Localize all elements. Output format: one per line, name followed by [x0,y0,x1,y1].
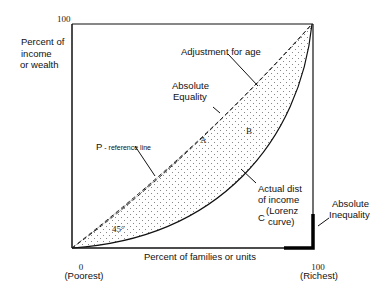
y-axis-label-1: Percent of [21,36,65,47]
x-origin-sub: (Poorest) [64,270,103,281]
abs-inequality-label-1: Absolute [332,198,369,209]
lorenz-label-1: Actual dist [258,183,302,194]
adjustment-leader [228,54,258,86]
lorenz-label-2: of income [258,194,299,205]
region-a-label: A [200,135,207,145]
pref-label-rest: - reference line [102,144,151,151]
lorenz-diagram: 100 Percent of income or wealth Percent … [0,0,390,299]
lorenz-label-3: (Lorenz [266,205,298,216]
angle-label: 45° [112,224,125,234]
abs-inequality-label-2: Inequality [329,209,370,220]
y-top-tick: 100 [57,14,71,24]
lorenz-label-4: curve) [268,216,294,227]
region-c-label: C [258,212,265,223]
y-axis-label-2: income [21,48,52,59]
x-axis-label: Percent of families or units [144,251,256,262]
x-end-sub: (Richest) [300,270,338,281]
equality-leader [213,107,220,113]
abs-equality-label-1: Absolute [172,80,209,91]
region-b-label: B [246,126,252,136]
abs-equality-label-2: Equality [173,91,207,102]
inequality-leader [318,218,329,226]
adjustment-label: Adjustment for age [181,46,261,57]
pref-label: P - reference line [96,141,151,152]
y-axis-label-3: or wealth [20,59,59,70]
